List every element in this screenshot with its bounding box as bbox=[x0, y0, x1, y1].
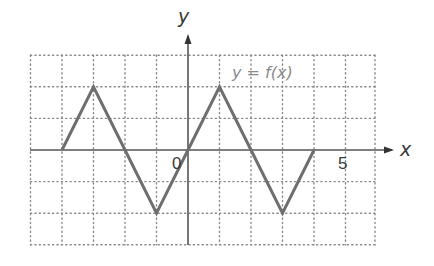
y-axis-label: y bbox=[177, 5, 190, 27]
function-label: y = f(x) bbox=[231, 63, 293, 82]
x-tick-label-5: 5 bbox=[338, 154, 347, 173]
x-axis-label: x bbox=[399, 138, 412, 160]
function-graph: y x y = f(x) 0 5 bbox=[0, 0, 434, 266]
origin-label: 0 bbox=[172, 154, 181, 173]
